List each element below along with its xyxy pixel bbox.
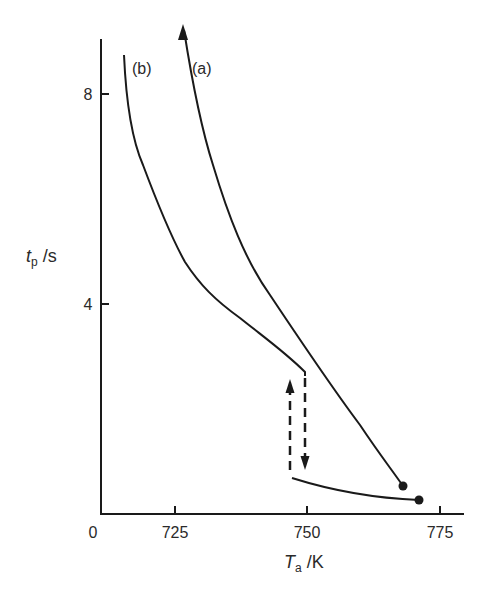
- curve-b-upper: [124, 55, 305, 376]
- chart: 8 4 0 725 750 775 Ta /K tp /s (a) (b): [0, 0, 488, 592]
- curve-b-label: (b): [132, 60, 152, 77]
- y-tick-label-8: 8: [84, 86, 93, 103]
- axes: [100, 39, 464, 515]
- y-axis-unit: /s: [38, 246, 57, 266]
- x-axis-title: Ta /K: [284, 552, 324, 575]
- curve-b-end-dot: [415, 496, 424, 505]
- curve-a-end-dot: [399, 482, 408, 491]
- x-axis-unit: /K: [302, 552, 324, 572]
- arrow-down-icon: [301, 456, 310, 470]
- curve-a: [184, 30, 403, 486]
- y-tick-label-4: 4: [84, 296, 93, 313]
- y-axis-title: tp /s: [26, 246, 57, 269]
- arrow-up-icon: [178, 24, 188, 40]
- x-tick-label-750: 750: [294, 524, 321, 541]
- x-tick-label-725: 725: [162, 524, 189, 541]
- x-tick-label-775: 775: [427, 524, 454, 541]
- x-origin-label: 0: [89, 524, 98, 541]
- arrow-up-icon: [286, 379, 295, 393]
- curve-a-label: (a): [192, 60, 212, 77]
